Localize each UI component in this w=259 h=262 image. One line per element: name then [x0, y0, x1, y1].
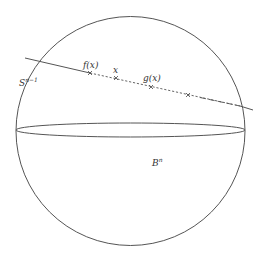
ball-label-base: B [152, 158, 159, 168]
ray-tail-dashed [200, 98, 240, 107]
g-of-x-label: g(x) [143, 74, 161, 83]
ray-dashed-segment [90, 73, 240, 106]
f-of-x-label: f(x) [83, 61, 98, 70]
ray-solid-segment [25, 58, 90, 73]
ray-solid-tail [240, 106, 253, 110]
sphere-label: Sn−1 [19, 77, 38, 88]
ball-label-superscript: n [159, 156, 163, 163]
point-g-of-x-marker [149, 85, 153, 89]
x-label: x [113, 66, 118, 75]
ball-diagram [0, 0, 259, 262]
ball-label: Bn [152, 157, 163, 168]
sphere-label-superscript: n−1 [25, 76, 38, 83]
sphere-boundary [16, 17, 245, 246]
equator-ellipse [16, 123, 245, 137]
